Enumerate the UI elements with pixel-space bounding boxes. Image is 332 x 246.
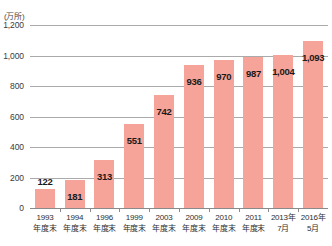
bar-value-label: 970 [216,71,231,82]
x-axis-tick-mark [268,208,269,212]
x-axis-tick-label: 2011年度末 [239,213,269,234]
x-axis-label-year: 2013年 [271,213,296,222]
x-axis-tick-label: 1994年度末 [60,213,90,234]
x-axis-tick-mark [239,208,240,212]
x-axis-tick-labels: 1993年度末1994年度末1996年度末1999年度末2003年度末2009年… [30,213,328,243]
x-axis-tick-label: 1993年度末 [30,213,60,234]
bar-chart: (万所) 1,2001,0008006004002000 12218131355… [0,0,332,246]
bar-value-label: 122 [37,176,52,187]
bar [243,57,263,208]
bar-slot: 551 [119,25,149,208]
bar-slot: 936 [179,25,209,208]
x-axis-tick-label: 2010年度末 [209,213,239,234]
y-axis-tick-label: 600 [0,112,24,122]
y-axis-tick-label: 400 [0,142,24,152]
x-axis-label-period: 年度末 [149,224,179,235]
x-axis-label-year: 1993 [36,213,53,222]
x-axis-tick-label: 1996年度末 [90,213,120,234]
x-axis-label-period: 年度末 [60,224,90,235]
x-axis-tick-mark [60,208,61,212]
bar-slot: 987 [239,25,269,208]
x-axis-label-year: 1996 [96,213,113,222]
x-axis-label-year: 1994 [66,213,83,222]
bar-value-label: 742 [157,106,172,117]
y-axis-tick-label: 0 [0,203,24,213]
bar [303,41,323,208]
bar-value-label: 1,093 [302,52,324,63]
bar-slot: 742 [149,25,179,208]
bar [94,160,114,208]
x-axis-tick-mark [149,208,150,212]
plot-area: 1,2001,0008006004002000 1221813135517429… [30,25,328,208]
y-axis-tick-label: 200 [0,173,24,183]
bar-slot: 181 [60,25,90,208]
bar-slot: 122 [30,25,60,208]
y-axis-tick-label: 1,200 [0,20,24,30]
x-axis-tick-marks [30,208,328,212]
x-axis-tick-mark [119,208,120,212]
x-axis-tick-label: 2009年度末 [179,213,209,234]
bar-value-label: 1,004 [272,66,294,77]
bars-layer: 1221813135517429369709871,0041,093 [30,25,328,208]
bar-slot: 970 [209,25,239,208]
x-axis-label-period: 年度末 [90,224,120,235]
x-axis-tick-mark [179,208,180,212]
x-axis-label-year: 1999 [126,213,143,222]
x-axis-tick-mark [298,208,299,212]
bar [273,55,293,208]
bar-slot: 313 [90,25,120,208]
x-axis-label-period: 年度末 [119,224,149,235]
x-axis-label-year: 2011 [245,213,261,222]
x-axis-label-year: 2009 [185,213,202,222]
x-axis-label-period: 年度末 [209,224,239,235]
x-axis-tick-label: 2013年7月 [268,213,298,234]
bar-value-label: 987 [246,68,261,79]
bar [35,189,55,208]
bar-slot: 1,093 [298,25,328,208]
y-axis-tick-label: 1,000 [0,51,24,61]
bar-value-label: 313 [97,171,112,182]
bar-value-label: 936 [186,76,201,87]
x-axis-label-period: 5月 [298,224,328,235]
bar-value-label: 181 [67,191,82,202]
x-axis-label-period: 年度末 [239,224,269,235]
x-axis-label-period: 年度末 [179,224,209,235]
x-axis-label-period: 7月 [268,224,298,235]
bar-slot: 1,004 [268,25,298,208]
x-axis-tick-label: 2003年度末 [149,213,179,234]
x-axis-tick-mark [90,208,91,212]
y-axis-tick-label: 800 [0,81,24,91]
bar [214,60,234,208]
x-axis-label-period: 年度末 [30,224,60,235]
x-axis-tick-mark [209,208,210,212]
x-axis-label-year: 2016年 [301,213,326,222]
x-axis-tick-label: 1999年度末 [119,213,149,234]
x-axis-tick-label: 2016年5月 [298,213,328,234]
bar-value-label: 551 [127,135,142,146]
x-axis-label-year: 2010 [215,213,232,222]
x-axis-label-year: 2003 [156,213,173,222]
